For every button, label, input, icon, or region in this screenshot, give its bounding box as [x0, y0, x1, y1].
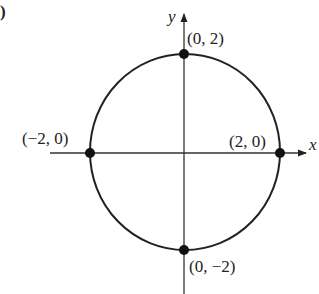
point-label-0-neg2: (0, −2)	[189, 258, 235, 275]
point-label-2-0: (2, 0)	[229, 133, 266, 150]
point-2-0	[275, 148, 285, 158]
panel-label: )	[0, 3, 6, 20]
point-label-0-2: (0, 2)	[187, 30, 224, 47]
y-axis-label: y	[168, 8, 176, 25]
circle-curve	[90, 54, 280, 250]
x-axis-label: x	[309, 136, 317, 153]
point-label-neg2-0: (−2, 0)	[22, 130, 68, 147]
point-0-2	[179, 49, 189, 59]
point-neg2-0	[85, 148, 95, 158]
point-0-neg2	[179, 245, 189, 255]
